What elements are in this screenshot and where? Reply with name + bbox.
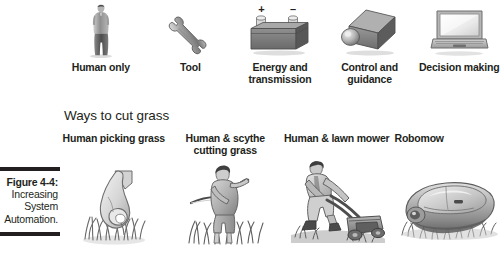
capability-item-tool: Tool bbox=[146, 2, 236, 74]
capability-item-decision: Decision making bbox=[414, 2, 504, 74]
human-scythe-icon bbox=[183, 163, 267, 247]
ways-to-cut-grass-row: Human picking grass bbox=[58, 133, 504, 259]
figure-caption: Figure 4-4: Increasing System Automation… bbox=[0, 167, 60, 236]
battery-icon: + – bbox=[247, 2, 313, 58]
capability-label: Tool bbox=[180, 62, 201, 74]
laptop-icon bbox=[429, 2, 489, 58]
caption-line-2: System bbox=[0, 200, 58, 212]
caption-rule-bottom bbox=[0, 232, 60, 236]
caption-number: Figure 4-4: bbox=[0, 176, 58, 188]
grass-method-label: Human & scythe cutting grass bbox=[170, 133, 282, 157]
grass-method-human-scythe: Human & scythe cutting grass bbox=[170, 133, 282, 247]
camera-sensor-icon bbox=[339, 2, 401, 58]
capability-label: Control and guidance bbox=[325, 62, 415, 85]
grass-method-human-picking: Human picking grass bbox=[58, 133, 170, 247]
hand-picking-grass-icon bbox=[75, 163, 153, 247]
capability-item-energy: + – bbox=[235, 2, 325, 85]
capability-label: Energy and transmission bbox=[235, 62, 325, 85]
grass-method-label: Robomow bbox=[393, 133, 444, 157]
capability-label: Human only bbox=[72, 62, 130, 74]
grass-method-human-lawn-mower: Human & lawn mower bbox=[281, 133, 393, 247]
grass-method-label: Human & lawn mower bbox=[284, 133, 390, 157]
figure-4-4: Human only Tool bbox=[0, 0, 504, 259]
grass-method-robomow: Robomow bbox=[393, 133, 504, 247]
capability-label: Decision making bbox=[419, 62, 499, 74]
caption-text: Figure 4-4: Increasing System Automation… bbox=[0, 171, 60, 229]
wrench-icon bbox=[165, 2, 215, 58]
grass-method-label: Human picking grass bbox=[63, 133, 165, 157]
caption-line-3: Automation. bbox=[0, 213, 58, 225]
caption-line-1: Increasing bbox=[0, 188, 58, 200]
section-title: Ways to cut grass bbox=[64, 108, 169, 123]
capability-item-human-only: Human only bbox=[56, 2, 146, 74]
robomow-icon bbox=[394, 163, 502, 247]
battery-minus-symbol: – bbox=[290, 4, 296, 15]
human-lawn-mower-icon bbox=[287, 163, 387, 247]
capability-icon-row: Human only Tool bbox=[56, 2, 504, 98]
battery-plus-symbol: + bbox=[258, 4, 264, 15]
capability-item-control: Control and guidance bbox=[325, 2, 415, 85]
human-figure-icon bbox=[84, 2, 118, 58]
